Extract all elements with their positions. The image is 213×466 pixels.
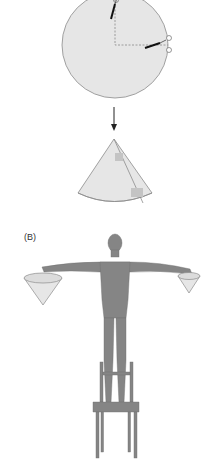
paper-disc [62, 0, 168, 98]
small-cone-left-hand [178, 273, 200, 294]
tape-top [115, 153, 123, 161]
paper-cone [78, 139, 152, 203]
person-silhouette [42, 234, 192, 403]
tape-bottom [131, 188, 143, 197]
down-arrow-icon [111, 107, 117, 131]
chair [93, 362, 139, 458]
panel-b-label: (B) [24, 232, 36, 242]
large-cone-right-hand [24, 273, 62, 305]
